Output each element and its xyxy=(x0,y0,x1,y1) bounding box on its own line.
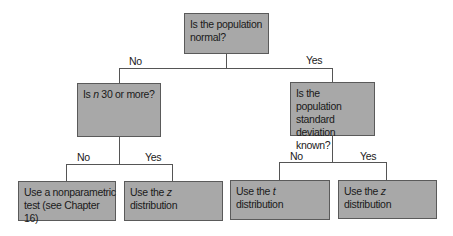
node-text: Use the z distribution xyxy=(130,186,217,212)
connector xyxy=(66,164,67,182)
node-text: Use the z distribution xyxy=(344,185,431,211)
connector xyxy=(386,162,387,181)
node-n-30-or-more: Is n 30 or more? xyxy=(77,83,161,137)
node-text: Is n 30 or more? xyxy=(83,88,155,101)
node-text: Use a nonparametric test (see Chapter 16… xyxy=(24,186,116,225)
edge-label-no: No xyxy=(129,55,142,67)
edge-label-no: No xyxy=(290,150,303,162)
connector xyxy=(66,164,173,165)
edge-label-no: No xyxy=(77,151,90,163)
connector xyxy=(172,164,173,182)
edge-label-yes: Yes xyxy=(306,54,322,66)
connector xyxy=(332,68,333,82)
edge-label-yes: Yes xyxy=(145,151,161,163)
node-population-normal: Is the population normal? xyxy=(184,13,269,54)
connector xyxy=(119,68,120,83)
connector xyxy=(279,162,387,163)
connector xyxy=(279,162,280,181)
node-std-dev-known: Is the population standard deviation kno… xyxy=(290,82,375,136)
connector xyxy=(332,136,333,163)
node-text: Is the population standard deviation kno… xyxy=(296,87,366,152)
leaf-nonparametric-test: Use a nonparametric test (see Chapter 16… xyxy=(18,181,116,221)
leaf-t-distribution: Use the t distribution xyxy=(230,180,330,220)
connector xyxy=(119,68,333,69)
edge-label-yes: Yes xyxy=(360,150,376,162)
connector xyxy=(226,54,227,69)
leaf-z-distribution-known-sd: Use the z distribution xyxy=(338,180,437,219)
connector xyxy=(119,137,120,165)
node-text: Use the t distribution xyxy=(236,185,324,211)
leaf-z-distribution: Use the z distribution xyxy=(124,181,223,221)
node-text: Is the population normal? xyxy=(190,18,263,44)
